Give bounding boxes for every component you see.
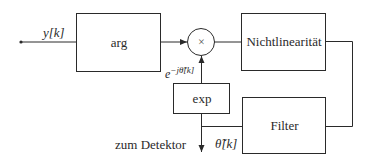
theta-estimate-label: θ̃[k] <box>215 137 237 150</box>
filter-block-label: Filter <box>243 98 326 154</box>
nonlin-to-filter-line <box>326 42 353 127</box>
multiplier-symbol: × <box>188 29 215 56</box>
arg-block-label: arg <box>77 14 161 71</box>
feedback-exponent: −jθ̃[k] <box>170 65 194 75</box>
detector-label: zum Detektor <box>115 138 186 151</box>
input-label: y[k] <box>43 26 65 39</box>
nonlinearity-block-label: Nichtlinearität <box>242 14 326 70</box>
feedback-label: e−jθ̃[k] <box>165 66 194 80</box>
exp-block-label: exp <box>174 84 230 114</box>
